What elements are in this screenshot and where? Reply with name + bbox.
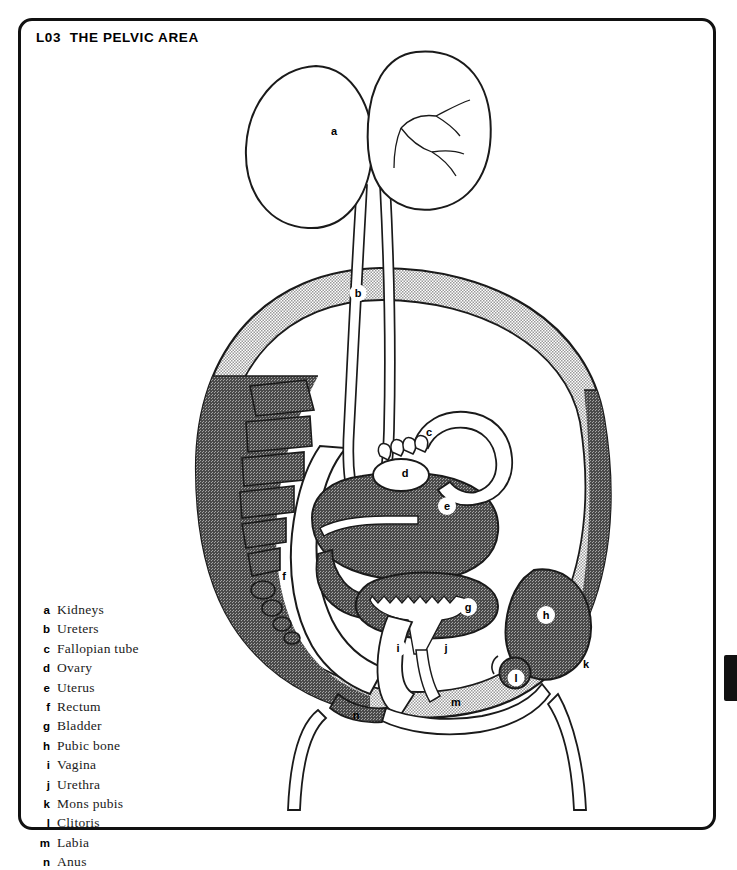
- legend-key-h: h: [30, 737, 57, 756]
- legend: a Kidneys b Ureters c Fallopian tube d O…: [30, 600, 200, 870]
- legend-label-b: Ureters: [57, 619, 99, 638]
- legend-label-d: Ovary: [57, 658, 92, 677]
- legend-item-f: f Rectum: [30, 697, 200, 716]
- legend-label-m: Labia: [57, 833, 89, 852]
- legend-label-n: Anus: [57, 852, 87, 870]
- legend-item-d: d Ovary: [30, 658, 200, 677]
- callout-letter-l: l: [514, 672, 517, 684]
- legend-key-i: i: [30, 756, 57, 775]
- legend-label-h: Pubic bone: [57, 736, 120, 755]
- callout-l: l: [508, 670, 525, 687]
- legend-item-j: j Urethra: [30, 775, 200, 794]
- callout-letter-j: j: [443, 642, 447, 654]
- legend-key-a: a: [30, 601, 57, 620]
- legend-key-c: c: [30, 640, 57, 659]
- callout-e: e: [438, 497, 456, 515]
- callout-b: b: [350, 285, 367, 302]
- legend-key-e: e: [30, 679, 57, 698]
- callout-letter-k: k: [583, 658, 590, 670]
- callout-letter-m: m: [451, 696, 461, 708]
- callout-a: a: [331, 125, 338, 137]
- legend-label-k: Mons pubis: [57, 794, 123, 813]
- callout-letter-e: e: [444, 500, 450, 512]
- callout-letter-d: d: [402, 467, 409, 479]
- legend-item-n: n Anus: [30, 852, 200, 870]
- legend-label-j: Urethra: [57, 775, 100, 794]
- callout-letter-n: n: [353, 709, 360, 721]
- legend-key-f: f: [30, 698, 57, 717]
- callout-i: i: [390, 640, 407, 657]
- legend-key-d: d: [30, 659, 57, 678]
- callout-letter-c: c: [426, 426, 432, 438]
- legend-key-n: n: [30, 853, 57, 870]
- callout-letter-h: h: [543, 609, 550, 621]
- callout-m: m: [451, 696, 461, 708]
- legend-key-j: j: [30, 776, 57, 795]
- callout-letter-i: i: [396, 642, 399, 654]
- legend-label-f: Rectum: [57, 697, 101, 716]
- legend-item-h: h Pubic bone: [30, 736, 200, 755]
- legend-item-e: e Uterus: [30, 678, 200, 697]
- legend-label-l: Clitoris: [57, 813, 100, 832]
- callout-letter-b: b: [355, 287, 362, 299]
- callout-letter-a: a: [331, 125, 338, 137]
- legend-item-g: g Bladder: [30, 716, 200, 735]
- legend-item-k: k Mons pubis: [30, 794, 200, 813]
- legend-key-g: g: [30, 717, 57, 736]
- legend-label-g: Bladder: [57, 716, 102, 735]
- callout-d: d: [402, 467, 409, 479]
- legend-item-l: l Clitoris: [30, 813, 200, 832]
- legend-key-l: l: [30, 814, 57, 833]
- callout-k: k: [583, 658, 590, 670]
- legend-label-e: Uterus: [57, 678, 95, 697]
- legend-key-k: k: [30, 795, 57, 814]
- callout-n: n: [353, 709, 360, 721]
- legend-key-b: b: [30, 620, 57, 639]
- legend-label-i: Vagina: [57, 755, 96, 774]
- legend-item-m: m Labia: [30, 833, 200, 852]
- kidneys: [246, 52, 491, 229]
- legend-key-m: m: [30, 834, 57, 853]
- callout-letter-g: g: [465, 601, 472, 613]
- legend-item-i: i Vagina: [30, 755, 200, 774]
- legend-item-c: c Fallopian tube: [30, 639, 200, 658]
- legend-item-a: a Kidneys: [30, 600, 200, 619]
- legend-item-b: b Ureters: [30, 619, 200, 638]
- callout-letter-f: f: [282, 570, 286, 582]
- callout-c: c: [426, 426, 432, 438]
- callout-j: j: [438, 640, 455, 657]
- legend-label-a: Kidneys: [57, 600, 104, 619]
- callout-h: h: [537, 606, 555, 624]
- callout-g: g: [459, 598, 477, 616]
- legend-label-c: Fallopian tube: [57, 639, 139, 658]
- callout-f: f: [282, 570, 286, 582]
- page-edge-tab: [724, 655, 737, 701]
